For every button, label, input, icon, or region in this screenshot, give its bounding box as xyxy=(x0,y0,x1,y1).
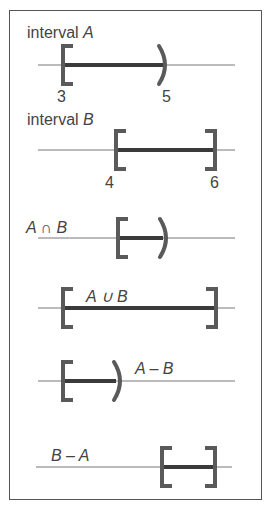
label-a-minus-b: A – B xyxy=(134,360,174,377)
panel-intersection: A ∩ B xyxy=(25,219,235,257)
label-interval-b: interval B xyxy=(27,111,94,128)
panel-a-minus-b: A – B xyxy=(38,360,235,400)
tick-label: 4 xyxy=(105,174,114,191)
tick-label: 3 xyxy=(57,88,66,105)
tick-label: 6 xyxy=(210,174,219,191)
panel-union: A ∪ B xyxy=(38,288,235,327)
panel-interval-b: interval B 4 6 xyxy=(27,111,235,191)
label-interval-a: interval A xyxy=(27,24,94,41)
label-intersection: A ∩ B xyxy=(25,219,67,236)
label-union: A ∪ B xyxy=(85,288,128,305)
panel-b-minus-a: B – A xyxy=(36,447,232,486)
interval-diagram: interval A 3 5 interval B 4 6 A ∩ B A ∪ … xyxy=(0,0,277,512)
tick-label: 5 xyxy=(162,88,171,105)
panel-interval-a: interval A 3 5 xyxy=(27,24,235,105)
label-b-minus-a: B – A xyxy=(51,447,90,464)
